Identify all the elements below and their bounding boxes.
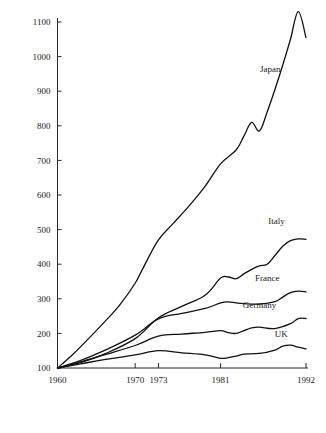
y-tick-label: 300	[37, 294, 51, 304]
y-tick-label: 500	[37, 225, 51, 235]
x-tick-label: 1960	[49, 375, 68, 385]
series-label-france: France	[255, 273, 280, 283]
x-tick-label: 1992	[297, 375, 315, 385]
series-label-italy: Italy	[268, 216, 285, 226]
chart-canvas: 10020030040050060070080090010001100 1960…	[0, 0, 326, 433]
y-tick-label: 100	[37, 363, 51, 373]
y-tick-label: 200	[37, 329, 51, 339]
x-tick-label: 1970	[126, 375, 145, 385]
y-tick-label: 600	[37, 190, 51, 200]
y-tick-label: 1100	[33, 17, 51, 27]
x-tick-label: 1981	[212, 375, 230, 385]
series-label-germany: Germany	[243, 300, 277, 310]
x-tick-label: 1973	[149, 375, 168, 385]
line-chart-figure: 10020030040050060070080090010001100 1960…	[0, 0, 326, 433]
y-tick-label: 1000	[33, 52, 52, 62]
y-tick-label: 900	[37, 86, 51, 96]
y-tick-label: 400	[37, 259, 51, 269]
series-label-japan: Japan	[260, 64, 281, 74]
y-tick-label: 700	[37, 156, 51, 166]
series-label-uk: UK	[275, 329, 288, 339]
y-tick-label: 800	[37, 121, 51, 131]
